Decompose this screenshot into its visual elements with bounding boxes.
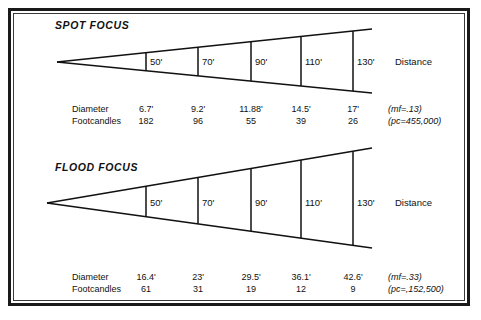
flood-footcandles-110: 12 <box>296 284 306 294</box>
spot-distance-label-90: 90' <box>255 56 267 67</box>
spot-diameter-50: 6.7' <box>139 104 153 114</box>
flood-diameter-90: 29.5' <box>241 272 260 282</box>
spot-note-pc: (pc=455,000) <box>388 116 441 126</box>
spot-diameter-130: 17' <box>347 104 359 114</box>
figure-page: SPOT FOCUS 50' 70' 90' 110' 130' Distanc… <box>0 0 481 320</box>
flood-footcandles-50: 61 <box>141 284 151 294</box>
flood-note-mf: (mf=.33) <box>388 272 422 282</box>
spot-row-label-diameter: Diameter <box>72 104 109 114</box>
flood-footcandles-90: 19 <box>246 284 256 294</box>
flood-footcandles-130: 9 <box>350 284 355 294</box>
flood-axis-word-distance: Distance <box>395 197 432 208</box>
spot-distance-label-50: 50' <box>150 56 162 67</box>
flood-diameter-50: 16.4' <box>136 272 155 282</box>
spot-distance-label-70: 70' <box>202 56 214 67</box>
flood-note-pc: (pc=,152,500) <box>388 284 444 294</box>
spot-axis-word-distance: Distance <box>395 56 432 67</box>
spot-distance-label-130: 130' <box>357 56 375 67</box>
spot-footcandles-90: 55 <box>246 116 256 126</box>
diagram-frame <box>8 8 470 306</box>
flood-diameter-130: 42.6' <box>343 272 362 282</box>
flood-row-label-diameter: Diameter <box>72 272 109 282</box>
spot-footcandles-50: 182 <box>138 116 153 126</box>
spot-footcandles-70: 96 <box>193 116 203 126</box>
spot-footcandles-110: 39 <box>296 116 306 126</box>
flood-distance-label-110: 110' <box>305 197 322 208</box>
flood-diameter-70: 23' <box>192 272 204 282</box>
flood-row-label-footcandles: Footcandles <box>72 284 121 294</box>
flood-distance-label-50: 50' <box>150 197 162 208</box>
flood-footcandles-70: 31 <box>193 284 203 294</box>
flood-diameter-110: 36.1' <box>291 272 310 282</box>
spot-footcandles-130: 26 <box>348 116 358 126</box>
spot-distance-label-110: 110' <box>305 56 322 67</box>
spot-diameter-110: 14.5' <box>291 104 310 114</box>
flood-distance-label-70: 70' <box>202 197 214 208</box>
spot-focus-title: SPOT FOCUS <box>55 19 129 31</box>
flood-distance-label-90: 90' <box>255 197 267 208</box>
flood-focus-title: FLOOD FOCUS <box>55 161 138 173</box>
spot-row-label-footcandles: Footcandles <box>72 116 121 126</box>
spot-diameter-70: 9.2' <box>191 104 205 114</box>
flood-distance-label-130: 130' <box>357 197 375 208</box>
spot-note-mf: (mf=.13) <box>388 104 422 114</box>
spot-diameter-90: 11.88' <box>239 104 263 114</box>
